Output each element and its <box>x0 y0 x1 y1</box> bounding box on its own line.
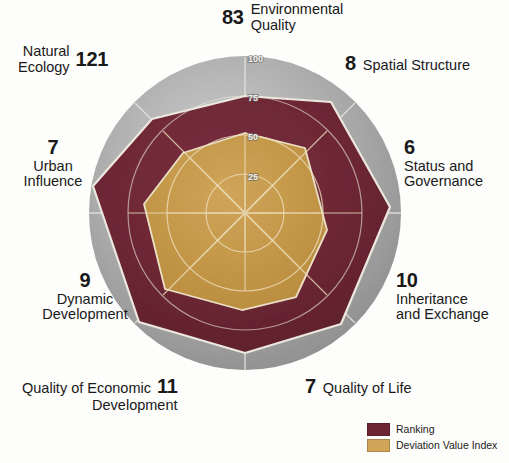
axis-label-dynamic-development: 9DynamicDevelopment <box>26 270 144 323</box>
axis-name-environmental-quality-line1: Environmental <box>251 1 344 17</box>
legend-swatch-deviation-value-index <box>367 439 390 452</box>
rank-value-status-and-governance: 6 <box>404 137 483 159</box>
legend-swatch-ranking <box>367 423 390 436</box>
axis-name-status-and-governance-line1: Status and <box>404 158 473 174</box>
rank-value-natural-ecology: 121 <box>76 48 108 70</box>
radial-tick-100: 100 <box>248 54 263 64</box>
radial-tick-75: 75 <box>248 93 258 103</box>
radar-chart-figure: 100 75 50 25 83EnvironmentalQuality 8Spa… <box>0 0 509 463</box>
radial-tick-25: 25 <box>248 172 258 182</box>
rank-value-environmental-quality: 83 <box>222 6 244 28</box>
axis-name-inheritance-and-exchange-line1: Inheritance <box>396 291 468 307</box>
axis-label-natural-ecology: NaturalEcology121 <box>18 44 108 75</box>
axis-label-urban-influence: 7UrbanInfluence <box>4 137 102 190</box>
legend-label-deviation-value-index: Deviation Value Index <box>396 438 497 452</box>
chart-legend: Ranking Deviation Value Index <box>367 422 497 454</box>
rank-value-inheritance-and-exchange: 10 <box>396 270 489 292</box>
legend-item-ranking: Ranking <box>367 422 497 436</box>
legend-label-ranking: Ranking <box>396 422 435 436</box>
rank-value-quality-of-economic-development: 11 <box>157 375 178 397</box>
radial-tick-50: 50 <box>248 132 258 142</box>
axis-label-quality-of-economic-development: Quality of Economic11Development <box>22 376 178 413</box>
axis-label-quality-of-life: 7Quality of Life <box>305 376 412 398</box>
rank-value-spatial-structure: 8 <box>345 52 356 74</box>
rank-value-urban-influence: 7 <box>4 137 102 159</box>
axis-name-status-and-governance-line2: Governance <box>404 173 483 189</box>
axis-name-dynamic-development-line1: Dynamic <box>57 291 113 307</box>
axis-name-spatial-structure: Spatial Structure <box>363 58 470 74</box>
axis-name-dynamic-development-line2: Development <box>42 306 127 322</box>
axis-name-inheritance-and-exchange-line2: and Exchange <box>396 306 489 322</box>
axis-label-spatial-structure: 8Spatial Structure <box>345 53 470 75</box>
axis-name-environmental-quality-line2: Quality <box>251 17 296 33</box>
axis-label-inheritance-and-exchange: 10Inheritanceand Exchange <box>396 270 489 323</box>
axis-name-quality-of-economic-development-line1: Quality of Economic <box>22 380 151 396</box>
axis-name-natural-ecology-line1: Natural <box>23 43 70 59</box>
rank-value-dynamic-development: 9 <box>26 270 144 292</box>
axis-name-quality-of-economic-development-line2: Development <box>92 397 177 413</box>
axis-label-environmental-quality: 83EnvironmentalQuality <box>222 2 343 33</box>
axis-name-natural-ecology-line2: Ecology <box>18 59 70 75</box>
rank-value-quality-of-life: 7 <box>305 375 316 397</box>
axis-name-urban-influence-line1: Urban <box>33 158 73 174</box>
axis-name-quality-of-life: Quality of Life <box>323 381 412 397</box>
axis-name-urban-influence-line2: Influence <box>24 173 83 189</box>
axis-label-status-and-governance: 6Status andGovernance <box>404 137 483 190</box>
legend-item-deviation-value-index: Deviation Value Index <box>367 438 497 452</box>
